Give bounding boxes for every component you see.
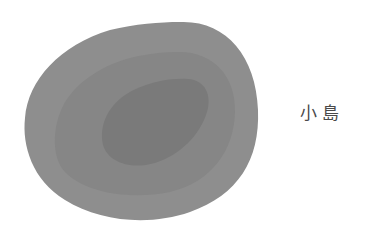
- island-label: 小島: [300, 103, 344, 123]
- island-figure: 小島: [0, 0, 366, 234]
